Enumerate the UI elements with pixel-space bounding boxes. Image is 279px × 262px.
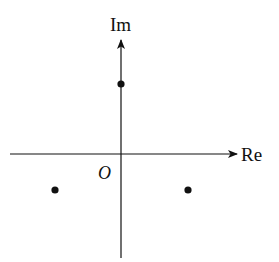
real-axis-label: Re <box>241 144 262 165</box>
top-point <box>117 80 124 87</box>
imaginary-axis-label: Im <box>110 14 131 35</box>
lower-right-point <box>184 186 191 193</box>
lower-left-point <box>51 186 58 193</box>
complex-plane-diagram: Im Re O <box>0 0 279 262</box>
origin-label: O <box>98 163 111 183</box>
